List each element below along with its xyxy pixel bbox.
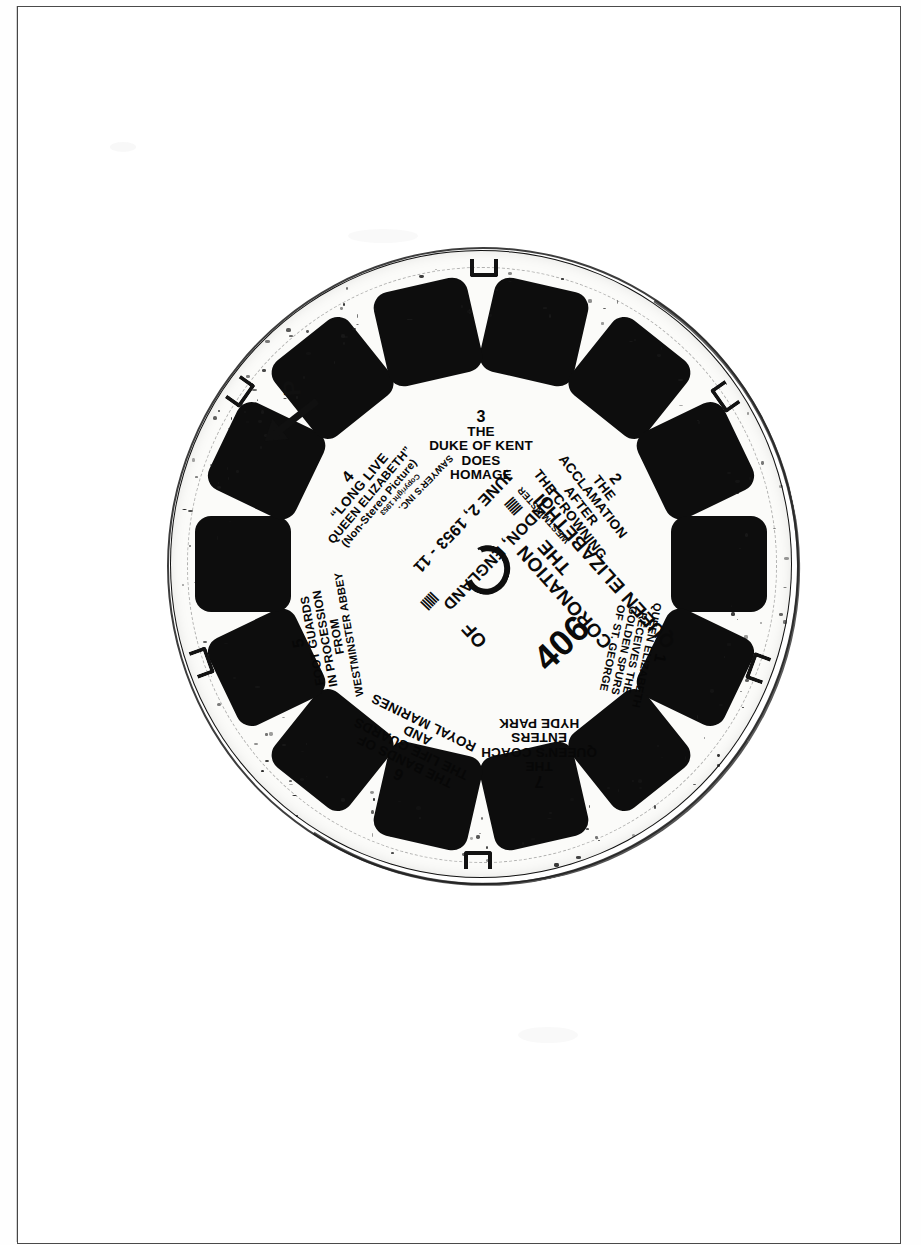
scan-speck	[372, 833, 374, 837]
scan-speck	[357, 314, 359, 318]
scan-speck	[419, 275, 424, 279]
scan-speck	[697, 715, 698, 718]
scan-speck	[589, 805, 591, 808]
scan-speck	[416, 806, 421, 810]
viewmaster-reel: P 406 THE CORONATION OF QUEEN ELIZABETH …	[170, 250, 792, 878]
scan-speck	[549, 812, 553, 814]
scan-speck	[601, 322, 603, 325]
scan-speck	[547, 818, 552, 819]
caption-7-line-4: HYDE PARK	[444, 716, 634, 730]
scan-speck	[783, 620, 787, 623]
scan-speck	[261, 770, 265, 772]
scan-speck	[543, 307, 548, 309]
scan-speck	[269, 732, 273, 736]
scan-speck	[727, 643, 731, 646]
picture-frame	[671, 516, 767, 612]
scan-speck	[419, 817, 421, 820]
scan-speck	[489, 314, 492, 318]
scan-speck	[779, 613, 783, 616]
scan-speck	[576, 856, 581, 858]
scan-speck	[398, 801, 401, 803]
scan-speck	[292, 795, 297, 796]
scan-speck	[661, 757, 662, 758]
scan-speck	[554, 863, 558, 867]
scan-speck	[194, 582, 195, 584]
page-border-rule: P 406 THE CORONATION OF QUEEN ELIZABETH …	[17, 6, 901, 1244]
scan-speck	[588, 299, 592, 302]
scan-speck	[749, 477, 751, 480]
direction-letter-p: P	[277, 379, 307, 398]
scan-speck	[561, 278, 564, 279]
scan-speck	[228, 428, 231, 430]
scan-speck	[744, 635, 748, 638]
scan-speck	[341, 334, 346, 337]
scan-speck	[508, 272, 512, 275]
scan-speck	[731, 605, 732, 607]
scan-speck	[476, 835, 480, 839]
scan-speck	[704, 737, 705, 739]
page-sheet: P 406 THE CORONATION OF QUEEN ELIZABETH …	[0, 0, 921, 1245]
scan-speck	[784, 557, 789, 560]
scan-speck	[341, 798, 345, 802]
scan-speck	[296, 396, 298, 399]
scan-speck	[239, 404, 243, 406]
scan-speck	[693, 784, 696, 786]
scan-speck	[570, 798, 574, 801]
scan-speck	[549, 314, 552, 318]
scan-speck	[374, 308, 376, 312]
scan-speck	[254, 743, 258, 745]
scan-speck	[496, 289, 498, 292]
scan-speck	[289, 335, 293, 337]
scan-speck	[745, 679, 749, 682]
scan-speck	[233, 677, 236, 679]
scan-speck	[203, 641, 207, 643]
scan-speck	[727, 472, 732, 474]
scan-speck	[761, 461, 764, 465]
scan-speck	[461, 305, 463, 308]
scan-speck	[246, 375, 250, 378]
scan-speck	[747, 412, 749, 415]
scan-speck	[226, 396, 230, 400]
scan-speck	[236, 470, 239, 473]
scan-speck	[586, 828, 589, 830]
scan-speck	[486, 859, 491, 862]
scan-speck	[531, 838, 535, 840]
scan-speck	[710, 689, 714, 693]
scan-speck	[192, 458, 195, 462]
scan-speck	[262, 369, 266, 372]
scan-speck	[252, 389, 257, 391]
scan-speck	[282, 717, 284, 718]
scan-speck	[731, 612, 735, 616]
scan-speck	[182, 584, 184, 585]
scan-speck	[282, 744, 286, 746]
scan-speck	[258, 420, 261, 424]
scan-speck	[726, 383, 728, 385]
scan-speck	[265, 733, 268, 736]
scan-speck	[296, 815, 297, 817]
scan-speck	[255, 686, 260, 688]
scan-speck	[717, 754, 720, 758]
scan-speck	[595, 836, 598, 839]
scan-speck	[435, 269, 438, 270]
scan-speck	[779, 485, 784, 488]
scan-speck	[195, 476, 198, 477]
scan-speck	[289, 780, 292, 782]
scan-speck	[390, 836, 391, 837]
scan-speck	[300, 778, 304, 781]
scan-speck	[286, 328, 291, 332]
scan-speck	[508, 281, 512, 282]
scan-speck	[306, 352, 310, 355]
scan-speck	[217, 703, 221, 707]
